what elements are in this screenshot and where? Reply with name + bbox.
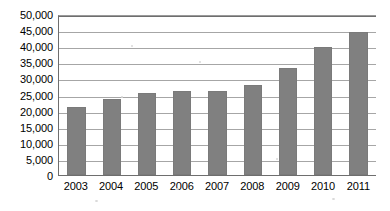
x-axis-tick-label: 2008 (235, 180, 270, 192)
y-axis-tick-label: 5,000 (26, 154, 53, 165)
bar[interactable] (103, 99, 121, 175)
y-axis-tick-label: 50,000 (20, 10, 53, 21)
bar-slot (129, 16, 164, 175)
y-axis-tick-label: 0 (47, 171, 53, 182)
bar-slot (165, 16, 200, 175)
y-axis-tick-label: 10,000 (20, 138, 53, 149)
y-axis-tick-label: 20,000 (20, 106, 53, 117)
bar[interactable] (349, 32, 367, 175)
bar-slot (270, 16, 305, 175)
plot-area (58, 15, 376, 176)
bar[interactable] (314, 47, 332, 175)
scan-artifact (95, 200, 98, 202)
bar-slot (341, 16, 376, 175)
bar[interactable] (173, 91, 191, 175)
bar[interactable] (138, 93, 156, 175)
bar-slot (235, 16, 270, 175)
y-axis-tick-label: 35,000 (20, 58, 53, 69)
y-axis-tick-label: 40,000 (20, 42, 53, 53)
x-axis-tick-label: 2011 (341, 180, 376, 192)
x-axis-tick-label: 2005 (129, 180, 164, 192)
y-axis-tick-label: 25,000 (20, 90, 53, 101)
bar-slot (200, 16, 235, 175)
y-axis-tick-label: 30,000 (20, 74, 53, 85)
bar[interactable] (244, 85, 262, 175)
bar[interactable] (279, 68, 297, 175)
x-axis-tick-label: 2006 (164, 180, 199, 192)
y-axis: 50,00045,00040,00035,00030,00025,00020,0… (0, 0, 58, 211)
x-axis: 200320042005200620072008200920102011 (58, 180, 376, 200)
y-axis-tick-label: 15,000 (20, 122, 53, 133)
x-axis-tick-label: 2010 (305, 180, 340, 192)
y-axis-tick-label: 45,000 (20, 26, 53, 37)
bar[interactable] (67, 107, 85, 175)
x-axis-tick-label: 2003 (58, 180, 93, 192)
bar-chart: 50,00045,00040,00035,00030,00025,00020,0… (0, 0, 390, 211)
bar[interactable] (208, 91, 226, 175)
x-axis-tick-label: 2004 (93, 180, 128, 192)
x-axis-tick-label: 2009 (270, 180, 305, 192)
bar-slot (306, 16, 341, 175)
bar-series (59, 16, 376, 175)
bar-slot (94, 16, 129, 175)
x-axis-tick-label: 2007 (199, 180, 234, 192)
bar-slot (59, 16, 94, 175)
